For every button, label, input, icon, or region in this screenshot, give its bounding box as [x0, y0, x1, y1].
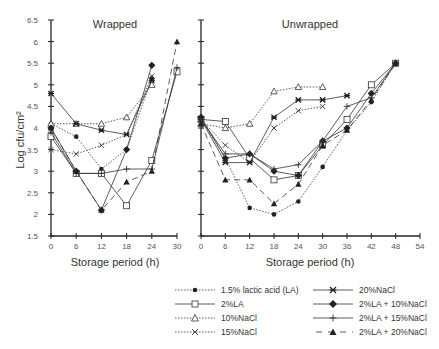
x-tick-label: 24 — [147, 242, 156, 251]
y-tick-label: 1.5 — [27, 232, 39, 241]
legend-marker-open-triangle-icon — [175, 313, 215, 323]
legend-label: 2%LA + 10%NaCl — [359, 299, 427, 309]
legend-marker-x-icon — [175, 327, 215, 337]
panel-title: Wrapped — [93, 18, 137, 30]
x-axis-label: Storage period (h) — [266, 256, 355, 268]
series-line — [48, 78, 155, 137]
legend-label: 15%NaCl — [221, 327, 257, 337]
y-tick-label: 3.5 — [27, 146, 39, 155]
series-line — [198, 60, 399, 172]
legend-marker-filled-diamond-icon — [313, 299, 353, 309]
legend-label: 10%NaCl — [221, 313, 257, 323]
legend-label: 2%LA — [221, 299, 244, 309]
x-tick-label: 12 — [97, 242, 106, 251]
y-tick-label: 3 — [34, 167, 39, 176]
x-tick-label: 0 — [49, 242, 54, 251]
legend-item-la2-nacl20: 2%LA + 20%NaCl — [313, 326, 427, 338]
series-line — [48, 74, 154, 157]
y-tick-label: 5 — [34, 81, 39, 90]
y-tick-label: 4.5 — [27, 102, 39, 111]
series-line — [198, 104, 325, 165]
legend-marker-plus-icon — [313, 313, 353, 323]
legend-item-la2-nacl10: 2%LA + 10%NaCl — [313, 298, 427, 310]
legend-marker-filled-circle-icon — [175, 285, 215, 295]
legend-item-la2-nacl15: 2%LA + 15%NaCl — [313, 312, 427, 324]
y-tick-label: 5.5 — [27, 59, 39, 68]
legend-item-la15: 1.5% lactic acid (LA) — [175, 284, 298, 296]
x-tick-label: 18 — [270, 242, 279, 251]
series-line — [47, 62, 155, 214]
x-tick-label: 30 — [173, 242, 182, 251]
x-tick-label: 48 — [391, 242, 400, 251]
series-line — [48, 82, 155, 127]
x-tick-label: 42 — [367, 242, 376, 251]
x-tick-label: 24 — [294, 242, 303, 251]
panel-wrapped: 1.522.533.544.555.566.50612182430Wrapped… — [27, 16, 182, 268]
x-tick-label: 30 — [318, 242, 327, 251]
x-tick-label: 6 — [223, 242, 228, 251]
series-line — [48, 38, 180, 212]
panel-unwrapped: 061218243036424854UnwrappedStorage perio… — [197, 18, 425, 268]
series-line — [198, 84, 326, 131]
legend-label: 1.5% lactic acid (LA) — [221, 285, 298, 295]
legend-marker-filled-triangle-icon — [313, 327, 353, 337]
y-tick-label: 2 — [34, 210, 39, 219]
legend-item-nacl15: 15%NaCl — [175, 326, 257, 338]
x-tick-label: 54 — [416, 242, 425, 251]
legend-label: 2%LA + 15%NaCl — [359, 313, 427, 323]
y-tick-label: 6 — [34, 38, 39, 47]
x-axis-label: Storage period (h) — [71, 256, 160, 268]
legend-label: 2%LA + 20%NaCl — [359, 327, 427, 337]
legend-item-nacl20: 20%NaCl — [313, 284, 395, 296]
x-tick-label: 6 — [74, 242, 79, 251]
series-line — [198, 93, 350, 165]
y-axis-label: Log cfu/cm² — [14, 111, 26, 169]
x-tick-label: 12 — [245, 242, 254, 251]
x-tick-label: 18 — [122, 242, 131, 251]
legend-marker-star-icon — [313, 285, 353, 295]
x-tick-label: 0 — [199, 242, 204, 251]
legend-item-la2: 2%LA — [175, 298, 244, 310]
x-tick-label: 36 — [343, 242, 352, 251]
series-line — [48, 69, 180, 209]
y-tick-label: 6.5 — [27, 16, 39, 25]
legend-item-nacl10: 10%NaCl — [175, 312, 257, 324]
legend-label: 20%NaCl — [359, 285, 395, 295]
chart-legend: 1.5% lactic acid (LA) 2%LA 10%NaCl 15%Na… — [175, 284, 439, 344]
y-tick-label: 4 — [34, 124, 39, 133]
y-tick-label: 2.5 — [27, 189, 39, 198]
panel-title: Unwrapped — [282, 18, 338, 30]
legend-marker-open-square-icon — [175, 299, 215, 309]
